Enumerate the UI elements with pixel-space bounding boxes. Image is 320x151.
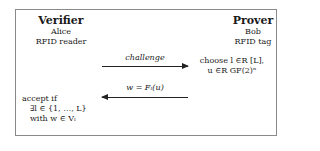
verifier-role: RFID reader [30,37,92,47]
choose-line-1: choose l ∈R [L], [191,56,273,66]
prover-choose-step: choose l ∈R [L], u ∈R GF(2)ⁿ [191,56,273,76]
prover-role: RFID tag [228,37,278,47]
accept-line-3: with w ∈ Vₗ [22,114,87,124]
choose-line-2: u ∈R GF(2)ⁿ [191,66,273,76]
verifier-name: Alice [30,27,92,37]
response-arrow [102,97,188,98]
prover-name: Bob [228,27,278,37]
verifier-title: Verifier [30,15,92,27]
verifier-accept-step: accept if ∃l ∈ {1, …, L} with w ∈ Vₗ [22,94,87,124]
challenge-arrow [102,66,188,67]
response-label: w = Fₗ(u) [102,83,188,92]
challenge-label: challenge [102,53,188,62]
prover-header: Prover Bob RFID tag [228,15,278,47]
prover-title: Prover [228,15,278,27]
arrowhead-left-icon [101,94,108,100]
accept-line-1: accept if [22,94,87,104]
verifier-header: Verifier Alice RFID reader [30,15,92,47]
arrowhead-right-icon [182,63,189,69]
accept-line-2: ∃l ∈ {1, …, L} [22,104,87,114]
